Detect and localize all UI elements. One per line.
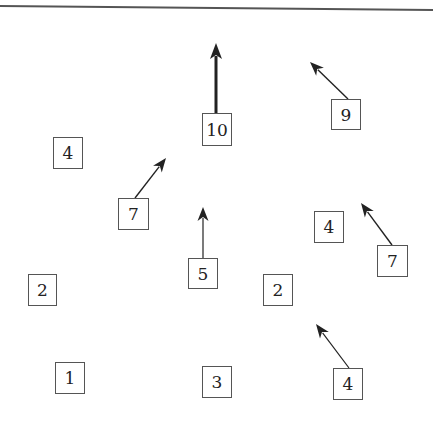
value-box: 7	[118, 198, 149, 230]
value-box: 3	[202, 366, 232, 398]
diagram-canvas: 1094754722134	[0, 0, 433, 435]
value-box: 4	[314, 211, 344, 243]
value-label: 1	[65, 368, 76, 388]
value-box: 1	[55, 362, 85, 394]
arrow-icon	[135, 158, 166, 198]
arrow-icon	[210, 43, 222, 113]
value-label: 4	[343, 374, 354, 394]
value-box: 10	[202, 113, 232, 146]
value-label: 5	[198, 264, 209, 284]
arrow-icon	[198, 207, 209, 258]
value-label: 7	[128, 204, 139, 224]
value-box: 4	[53, 137, 83, 169]
arrow-icon	[316, 324, 349, 368]
value-label: 9	[341, 105, 352, 125]
arrow-icon	[310, 62, 348, 99]
value-label: 4	[63, 143, 74, 163]
value-label: 4	[324, 217, 335, 237]
value-label: 2	[37, 280, 48, 300]
value-label: 7	[387, 251, 398, 271]
value-box: 9	[331, 99, 361, 130]
value-box: 4	[333, 368, 363, 400]
arrow-icon	[361, 203, 392, 245]
value-box: 7	[377, 245, 408, 277]
value-label: 2	[273, 280, 284, 300]
value-box: 2	[263, 274, 293, 306]
top-rule	[0, 6, 433, 10]
value-label: 10	[206, 120, 228, 140]
value-label: 3	[212, 372, 223, 392]
value-box: 2	[28, 274, 57, 306]
value-box: 5	[188, 258, 218, 289]
